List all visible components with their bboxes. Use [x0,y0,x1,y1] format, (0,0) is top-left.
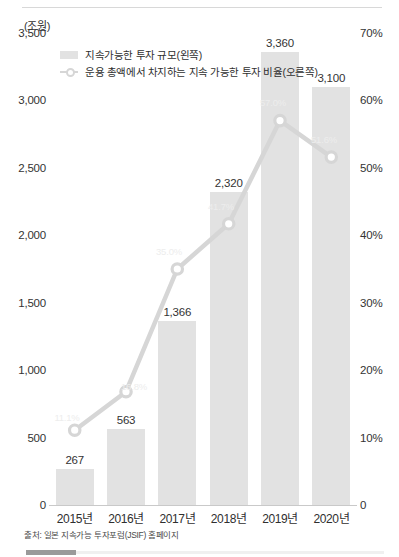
y-left-tick-3000: 3,000 [0,94,46,106]
y-left-tick-2500: 2,500 [0,162,46,174]
percentage-line-series [49,33,357,505]
pct-value-label-2015: 11.1% [45,412,89,423]
legend-line-marker-icon [60,67,78,76]
y-right-tick-30: 30% [360,297,398,309]
pct-value-label-2019: 57.0% [251,97,295,108]
pct-value-label-2018: 41.7% [199,201,243,212]
bar-value-label-2018: 2,320 [199,177,259,189]
bar-value-label-2017: 1,366 [147,306,207,318]
legend-label-bar: 지속가능한 투자 규모(왼쪽) [85,47,202,62]
y-right-tick-40: 40% [360,229,398,241]
legend-item-bar: 지속가능한 투자 규모(왼쪽) [60,47,318,62]
y-left-tick-1000: 1,000 [0,364,46,376]
plot-area: 267 563 1,366 2,320 3,360 3,100 11.1% 16… [49,33,357,505]
chart-legend: 지속가능한 투자 규모(왼쪽) 운용 총액에서 차지하는 지속 가능한 투자 비… [60,47,318,81]
pct-value-label-2020: 51.6% [302,134,346,145]
y-right-tick-60: 60% [360,94,398,106]
x-axis-baseline [49,505,357,506]
legend-label-line: 운용 총액에서 차지하는 지속 가능한 투자 비율(오른쪽) [85,64,318,79]
chart-container: (조원) 3,500 3,000 2,500 2,000 1,500 1,000… [0,0,399,557]
horizontal-scrollbar-thumb[interactable] [26,550,76,555]
bar-value-label-2015: 267 [45,454,105,466]
y-left-tick-3500: 3,500 [0,27,46,39]
y-right-tick-50: 50% [360,162,398,174]
y-right-tick-70: 70% [360,27,398,39]
legend-item-line: 운용 총액에서 차지하는 지속 가능한 투자 비율(오른쪽) [60,64,318,79]
pct-value-label-2016: 16.8% [112,381,156,392]
x-axis-label-2020: 2020년 [296,509,366,526]
y-right-tick-10: 10% [360,432,398,444]
horizontal-scrollbar-track[interactable] [26,551,384,554]
y-left-tick-500: 500 [0,432,46,444]
y-right-tick-20: 20% [360,364,398,376]
y-left-tick-1500: 1,500 [0,297,46,309]
legend-bar-swatch-icon [60,51,78,59]
source-note: 출처: 일본 지속가능 투자포럼(JSIF) 홈페이지 [24,528,179,540]
y-left-tick-2000: 2,000 [0,229,46,241]
bar-value-label-2016: 563 [96,414,156,426]
pct-value-label-2017: 35.0% [147,246,191,257]
